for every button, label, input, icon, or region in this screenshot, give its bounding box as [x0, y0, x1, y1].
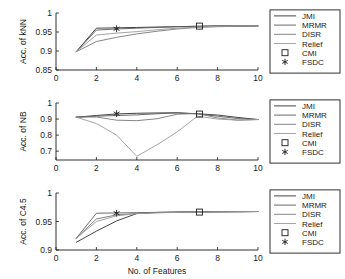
- x-tick-label: 6: [175, 253, 180, 263]
- legend-label-jmi: JMI: [302, 192, 315, 201]
- legend-label-relief: Relief: [302, 220, 323, 229]
- legend-nb: JMIMRMRDISRReliefCMIFSDC: [270, 100, 340, 163]
- legend-label-fsdc: FSDC: [302, 148, 324, 157]
- y-axis-label: Acc. of C4.5: [18, 198, 28, 245]
- x-tick-label: 10: [253, 253, 263, 263]
- legend-label-disr: DISR: [302, 30, 321, 39]
- x-tick-label: 2: [94, 73, 99, 83]
- y-tick-label: 0.9: [40, 245, 52, 255]
- legend-label-relief: Relief: [302, 130, 323, 139]
- x-tick-label: 0: [54, 163, 59, 173]
- legend-label-jmi: JMI: [302, 12, 315, 21]
- y-tick-label: 1: [47, 188, 52, 198]
- y-tick-label: 0.85: [35, 65, 52, 75]
- y-tick-label: 0.95: [35, 27, 52, 37]
- x-tick-label: 6: [175, 163, 180, 173]
- x-tick-label: 4: [134, 163, 139, 173]
- axis-spines: [56, 103, 258, 160]
- legend-c45: JMIMRMRDISRReliefCMIFSDC: [270, 190, 340, 253]
- legend-label-mrmr: MRMR: [302, 111, 327, 120]
- y-tick-label: 0.8: [40, 130, 52, 140]
- y-tick-label: 0.7: [40, 146, 52, 156]
- y-tick-label: 1: [47, 98, 52, 108]
- subplot-knn: 0.850.90.9510246810Acc. of kNNJMIMRMRDIS…: [18, 8, 340, 83]
- legend-knn: JMIMRMRDISRReliefCMIFSDC: [270, 10, 340, 73]
- x-tick-label: 2: [94, 253, 99, 263]
- x-tick-label: 8: [215, 73, 220, 83]
- legend-label-fsdc: FSDC: [302, 238, 324, 247]
- x-tick-label: 8: [215, 253, 220, 263]
- chart-svg: 0.850.90.9510246810Acc. of kNNJMIMRMRDIS…: [0, 0, 345, 279]
- y-axis-label: Acc. of NB: [18, 111, 28, 151]
- legend-label-cmi: CMI: [302, 229, 317, 238]
- series-line-jmi: [76, 212, 258, 243]
- x-tick-label: 4: [134, 73, 139, 83]
- x-tick-label: 8: [215, 163, 220, 173]
- x-tick-label: 0: [54, 253, 59, 263]
- x-tick-label: 6: [175, 73, 180, 83]
- y-tick-label: 0.9: [40, 46, 52, 56]
- figure-panel: 0.850.90.9510246810Acc. of kNNJMIMRMRDIS…: [0, 0, 345, 279]
- legend-label-cmi: CMI: [302, 139, 317, 148]
- x-tick-label: 0: [54, 73, 59, 83]
- legend-label-fsdc: FSDC: [302, 58, 324, 67]
- y-tick-label: 0.9: [40, 114, 52, 124]
- x-axis-label: No. of Features: [128, 266, 187, 276]
- legend-label-mrmr: MRMR: [302, 201, 327, 210]
- series-line-relief: [76, 116, 258, 156]
- y-tick-label: 0.95: [35, 217, 52, 227]
- y-tick-label: 1: [47, 8, 52, 18]
- legend-label-relief: Relief: [302, 40, 323, 49]
- legend-label-mrmr: MRMR: [302, 21, 327, 30]
- axis-spines: [56, 193, 258, 250]
- subplot-nb: 0.70.80.910246810Acc. of NBJMIMRMRDISRRe…: [18, 98, 340, 173]
- legend-label-disr: DISR: [302, 210, 321, 219]
- y-axis-label: Acc. of kNN: [18, 19, 28, 64]
- legend-label-disr: DISR: [302, 120, 321, 129]
- series-line-relief: [76, 212, 258, 239]
- series-line-mrmr: [76, 212, 258, 239]
- legend-label-cmi: CMI: [302, 49, 317, 58]
- x-tick-label: 2: [94, 163, 99, 173]
- subplot-c45: 0.90.9510246810Acc. of C4.5No. of Featur…: [18, 188, 340, 276]
- legend-label-jmi: JMI: [302, 102, 315, 111]
- x-tick-label: 10: [253, 163, 263, 173]
- x-tick-label: 10: [253, 73, 263, 83]
- series-line-disr: [76, 212, 258, 239]
- plot-canvas: 0.850.90.9510246810Acc. of kNNJMIMRMRDIS…: [0, 0, 345, 279]
- x-tick-label: 4: [134, 253, 139, 263]
